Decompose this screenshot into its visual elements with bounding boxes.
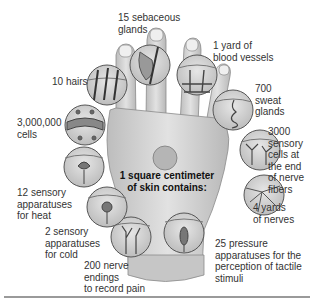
callout-pain-nerve-endings: 200 nerve endings to record pain <box>84 260 145 295</box>
hairs-circle <box>87 65 127 105</box>
callout-sensory-cells: 3000 sensory cells at the end of nerve f… <box>268 126 304 195</box>
sweat-glands-circle <box>213 90 253 130</box>
cells-circle <box>65 105 105 145</box>
heat-apparatus-circle <box>64 147 104 187</box>
callout-cells: 3,000,000 cells <box>17 117 62 140</box>
blood-vessels-circle <box>177 55 217 95</box>
callout-sweat-glands: 700 sweat glands <box>255 83 284 118</box>
callout-pressure-apparatuses: 25 pressure apparatuses for the percepti… <box>215 238 302 284</box>
callout-cold-apparatuses: 2 sensory apparatuses for cold <box>45 226 100 261</box>
pressure-circle <box>164 213 204 253</box>
sebaceous-glands-circle <box>130 45 170 85</box>
callout-sebaceous-glands: 15 sebaceous glands <box>118 12 180 35</box>
callout-nerves: 4 yards of nerves <box>253 202 294 225</box>
callout-heat-apparatuses: 12 sensory apparatuses for heat <box>17 187 72 222</box>
skin-diagram: 15 sebaceous glands 1 yard of blood vess… <box>0 0 314 303</box>
callout-blood-vessels: 1 yard of blood vessels <box>213 40 274 63</box>
diagram-title: 1 square centimeter of skin contains: <box>112 170 222 194</box>
callout-hairs: 10 hairs <box>52 76 88 88</box>
square-centimeter-spot <box>153 146 177 170</box>
bottom-divider <box>4 296 310 298</box>
